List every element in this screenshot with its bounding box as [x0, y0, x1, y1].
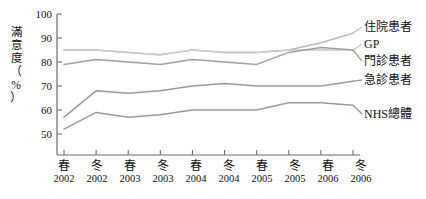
series-lines — [64, 33, 353, 129]
legend-leader-0 — [353, 27, 362, 33]
plot-area — [0, 0, 426, 199]
series-line-3 — [64, 81, 353, 117]
series-line-4 — [64, 103, 353, 129]
legend-leader-2 — [353, 50, 362, 61]
legend-leader-1 — [353, 44, 362, 50]
line-chart: 滿 意 度 （ % ） 100 90 80 70 60 50 春 2002 冬 … — [0, 0, 426, 199]
legend-leader-4 — [353, 105, 362, 114]
series-line-1 — [64, 50, 353, 55]
legend-leader-3 — [353, 80, 362, 81]
legend-leader-lines — [353, 27, 362, 114]
y-tick-marks — [57, 14, 62, 134]
x-tick-marks — [64, 150, 353, 155]
